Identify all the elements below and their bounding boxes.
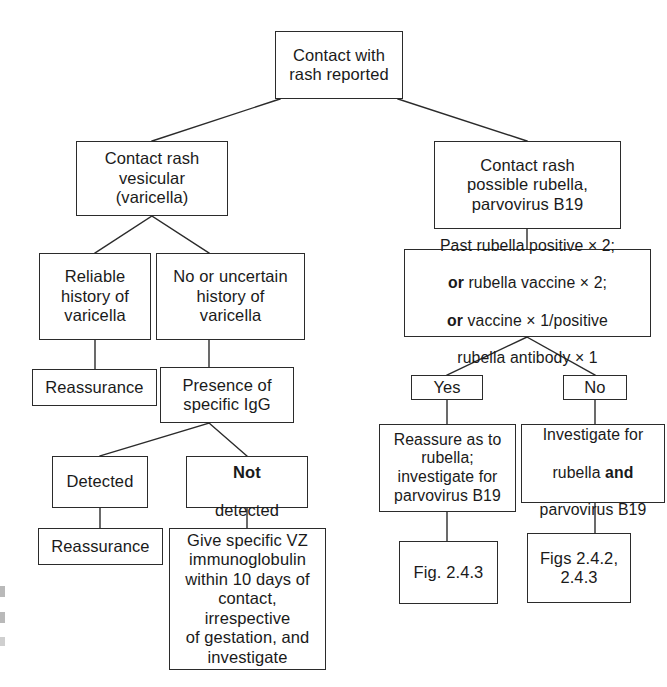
- past-rubella-or-2: or: [447, 312, 463, 329]
- node-investigate-rubella-parvovirus-label: Investigate for rubella and parvovirus B…: [526, 408, 660, 520]
- node-reassure-as-to-rubella-label: Reassure as to rubella; investigate for …: [384, 431, 511, 506]
- edge-left-nouncertain: [152, 216, 209, 253]
- node-reassurance-igg-detected[interactable]: Reassurance: [38, 528, 163, 565]
- node-presence-specific-igg-label: Presence of specific IgG: [165, 376, 289, 415]
- node-fig-reference-243[interactable]: Fig. 2.4.3: [399, 541, 498, 604]
- node-reassurance-varicella-history-label: Reassurance: [37, 378, 152, 397]
- scan-artifact-mark: [0, 586, 5, 597]
- node-yes[interactable]: Yes: [411, 375, 483, 400]
- edge-left-reliable: [95, 216, 152, 253]
- node-root-label: Contact with rash reported: [280, 46, 398, 85]
- node-past-rubella-criteria[interactable]: Past rubella positive × 2; or rubella va…: [404, 249, 651, 337]
- node-no-uncertain-history-label: No or uncertain history of varicella: [161, 267, 300, 325]
- node-no-uncertain-history[interactable]: No or uncertain history of varicella: [156, 253, 305, 340]
- node-reassure-as-to-rubella[interactable]: Reassure as to rubella; investigate for …: [379, 424, 516, 512]
- node-figs-reference-242-243[interactable]: Figs 2.4.2, 2.4.3: [527, 533, 631, 603]
- node-fig-reference-243-label: Fig. 2.4.3: [404, 563, 493, 582]
- node-contact-rash-rubella-parvovirus-label: Contact rash possible rubella, parvoviru…: [439, 156, 616, 214]
- node-past-rubella-criteria-label: Past rubella positive × 2; or rubella va…: [409, 219, 646, 368]
- node-igg-detected-label: Detected: [57, 472, 143, 491]
- scan-artifact-mark: [0, 612, 5, 623]
- node-figs-reference-242-243-label: Figs 2.4.2, 2.4.3: [532, 549, 626, 588]
- node-give-vz-immunoglobulin[interactable]: Give specific VZ immunoglobulin within 1…: [169, 528, 326, 670]
- node-contact-rash-vesicular[interactable]: Contact rash vesicular (varicella): [76, 141, 228, 216]
- node-reliable-history[interactable]: Reliable history of varicella: [39, 253, 151, 340]
- node-igg-not-detected[interactable]: Not detected: [186, 456, 308, 508]
- past-rubella-line-1: Past rubella positive × 2;: [440, 237, 615, 254]
- node-root[interactable]: Contact with rash reported: [275, 31, 403, 99]
- past-rubella-line-4: rubella antibody × 1: [457, 349, 597, 366]
- node-no[interactable]: No: [563, 375, 627, 400]
- node-reliable-history-label: Reliable history of varicella: [44, 267, 146, 325]
- flowchart-canvas: Contact with rash reported Contact rash …: [0, 0, 667, 687]
- scan-artifact-mark: [0, 637, 5, 646]
- node-reassurance-igg-detected-label: Reassurance: [43, 537, 158, 556]
- node-reassurance-varicella-history[interactable]: Reassurance: [32, 369, 157, 406]
- investigate-line-1: Investigate for: [543, 426, 644, 443]
- edge-root-right: [398, 99, 527, 141]
- node-investigate-rubella-parvovirus[interactable]: Investigate for rubella and parvovirus B…: [521, 424, 665, 503]
- investigate-and-bold: and: [605, 464, 633, 481]
- past-rubella-line-2: rubella vaccine × 2;: [464, 274, 607, 291]
- node-igg-not-detected-label: Not detected: [191, 443, 303, 521]
- node-give-vz-immunoglobulin-label: Give specific VZ immunoglobulin within 1…: [174, 531, 321, 667]
- not-detected-bold: Not: [233, 463, 261, 481]
- not-detected-rest: detected: [215, 501, 279, 519]
- past-rubella-or-1: or: [448, 274, 464, 291]
- node-presence-specific-igg[interactable]: Presence of specific IgG: [160, 367, 294, 423]
- node-no-label: No: [568, 378, 622, 397]
- investigate-line-2a: rubella: [552, 464, 605, 481]
- node-igg-detected[interactable]: Detected: [52, 456, 148, 508]
- node-yes-label: Yes: [416, 378, 478, 397]
- investigate-line-3: parvovirus B19: [540, 501, 647, 518]
- edge-root-left: [152, 99, 280, 141]
- node-contact-rash-vesicular-label: Contact rash vesicular (varicella): [81, 149, 223, 207]
- node-contact-rash-rubella-parvovirus[interactable]: Contact rash possible rubella, parvoviru…: [434, 141, 621, 229]
- past-rubella-line-3: vaccine × 1/positive: [463, 312, 608, 329]
